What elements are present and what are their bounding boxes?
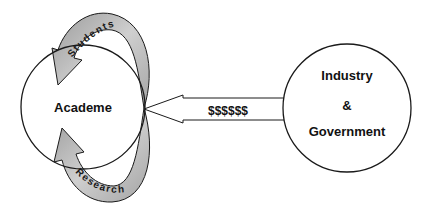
academe-label: Academe xyxy=(54,100,112,115)
diagram-canvas: Academe $$$$$$ Industry & Government Stu… xyxy=(0,0,431,215)
government-label: Government xyxy=(309,124,386,139)
funding-label: $$$$$$ xyxy=(208,104,248,118)
industry-label: Industry xyxy=(321,68,373,83)
ampersand-label: & xyxy=(342,98,351,113)
